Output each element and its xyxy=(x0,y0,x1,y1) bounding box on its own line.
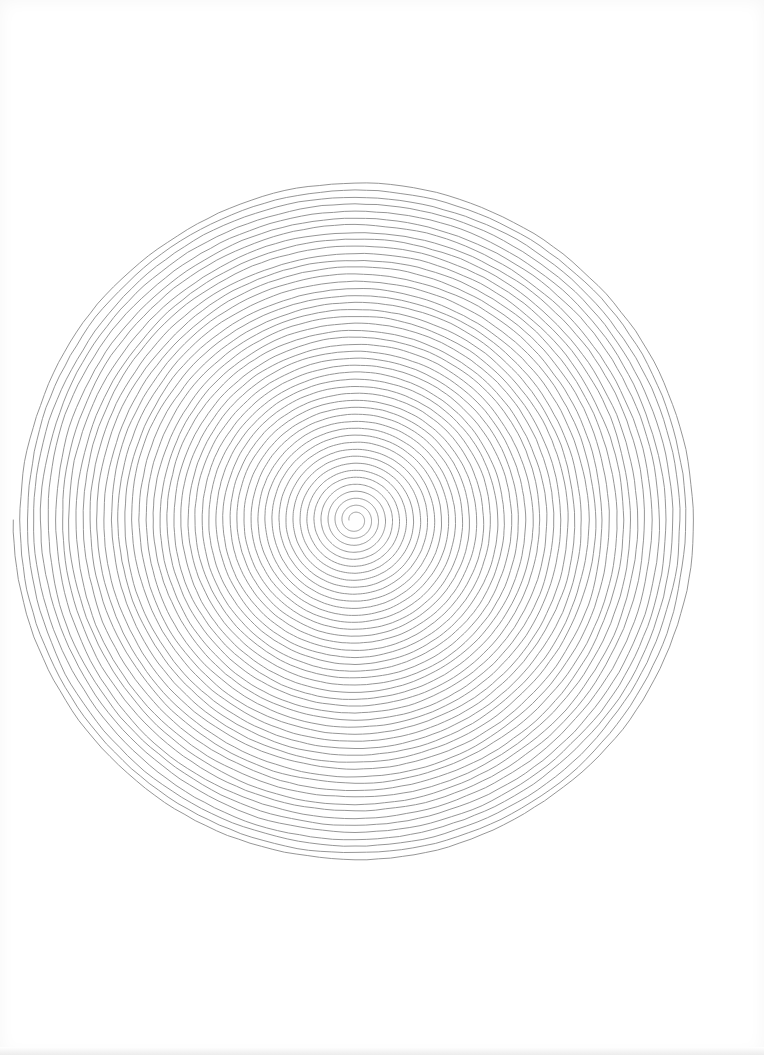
spiral-drawing xyxy=(0,0,764,1055)
paper-bottom-edge xyxy=(0,1047,764,1055)
paper-sheet: Spiral line drawing xyxy=(0,0,764,1055)
spiral-line xyxy=(13,183,693,860)
